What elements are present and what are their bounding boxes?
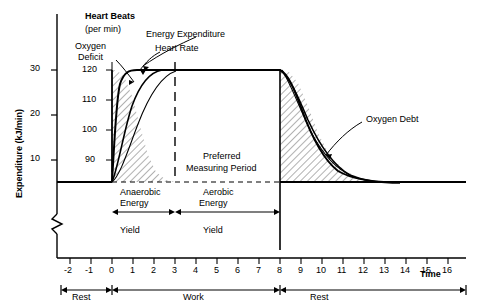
x-tick-3: 3 [172,266,177,275]
x-tick-7: 7 [256,266,261,275]
x-tick--1: -1 [85,266,93,275]
x-tick-15: 15 [421,266,431,275]
phase-bar [61,285,466,295]
x-tick-16: 16 [442,266,452,275]
annotation-preferred-line1: Preferred [203,152,241,161]
y-tick-left-10: 10 [30,154,40,163]
x-tick--2: -2 [64,266,72,275]
phase-label-work: Work [183,293,204,302]
oxygen-deficit-region [112,70,176,182]
y-tick-left-20: 20 [30,109,40,118]
y-axis-right-ticks [106,62,112,172]
x-tick-9: 9 [298,266,303,275]
annotation-heart-rate: Heart Rate [155,44,199,53]
y-axis-right-title-line1: Heart Beats [85,12,135,21]
annotation-oxygen-deficit-line2: Deficit [78,53,103,62]
x-tick-2: 2 [151,266,156,275]
annotation-aerobic-line2: Energy [199,199,228,208]
anaerobic-arrow [112,209,175,215]
x-tick-5: 5 [214,266,219,275]
y-axis-left-title: Expenditure (kJ/min) [14,109,24,198]
annotation-anaerobic-line3: Yield [120,226,140,235]
phase-label-rest-left: Rest [72,293,91,302]
chart-figure: Expenditure (kJ/min) Heart Beats (per mi… [0,0,481,304]
annotation-anaerobic-line1: Anaerobic [120,188,161,197]
x-tick-6: 6 [235,266,240,275]
y-axis-left [51,14,62,258]
x-axis [57,258,466,264]
x-tick-13: 13 [379,266,389,275]
phase-label-rest-right: Rest [310,293,329,302]
annotation-aerobic-line3: Yield [203,226,223,235]
axis-break-icon [52,214,62,234]
annotation-anaerobic-line2: Energy [120,199,149,208]
y-axis-right-title-line2: (per min) [85,25,121,34]
y-tick-right-90: 90 [85,155,95,164]
y-tick-right-110: 110 [82,95,96,104]
x-tick-11: 11 [337,266,346,275]
x-tick-0: 0 [109,266,114,275]
x-tick-14: 14 [400,266,410,275]
y-tick-right-100: 100 [82,125,97,134]
annotation-energy-expenditure: Energy Expenditure [146,30,225,39]
annotation-aerobic-line1: Aerobic [203,188,234,197]
annotation-preferred-line2: Measuring Period [186,164,257,173]
x-tick-12: 12 [358,266,368,275]
annotation-oxygen-deficit-line1: Oxygen [75,42,106,51]
aerobic-arrow [175,209,280,215]
annotation-oxygen-debt: Oxygen Debt [366,115,419,124]
y-tick-right-120: 120 [82,65,97,74]
y-tick-left-30: 30 [30,64,40,73]
x-tick-1: 1 [130,266,135,275]
x-tick-4: 4 [193,266,198,275]
annotation-leaders [116,37,362,159]
x-tick-8: 8 [277,266,282,275]
x-tick-10: 10 [316,266,326,275]
